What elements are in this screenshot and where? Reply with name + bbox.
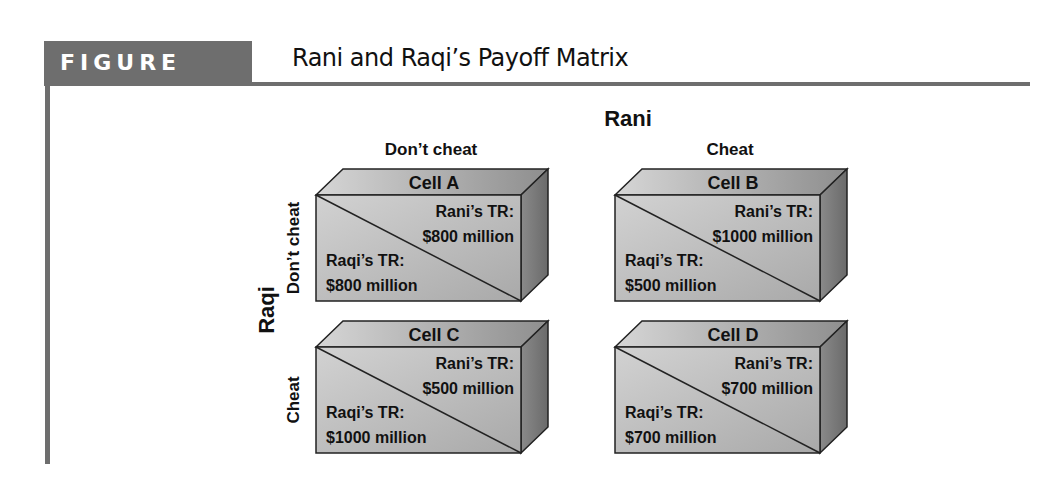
cell-b-name: Cell B [707,173,758,193]
cell-a-raqi-label: Raqi’s TR: [326,252,405,269]
cell-a: Cell A Rani’s TR: $800 million Raqi’s TR… [316,169,548,301]
column-header-cheat: Cheat [706,140,754,159]
cell-c-raqi-value: $1000 million [326,429,427,446]
cell-d-rani-label: Rani’s TR: [734,355,813,372]
row-header-dont-cheat: Don’t cheat [284,201,303,294]
cell-d-raqi-label: Raqi’s TR: [625,404,704,421]
cell-c-rani-label: Rani’s TR: [435,355,514,372]
cell-b-raqi-value: $500 million [625,277,717,294]
cell-a-raqi-value: $800 million [326,277,418,294]
cell-a-name: Cell A [409,173,459,193]
cell-b: Cell B Rani’s TR: $1000 million Raqi’s T… [615,169,847,301]
cell-b-rani-label: Rani’s TR: [734,203,813,220]
cell-c-rani-value: $500 million [422,380,514,397]
cell-d-name: Cell D [707,325,758,345]
column-header-dont-cheat: Don’t cheat [385,140,478,159]
cell-a-rani-label: Rani’s TR: [435,203,514,220]
cell-b-rani-value: $1000 million [713,228,814,245]
row-player-label: Raqi [254,286,279,334]
cell-c: Cell C Rani’s TR: $500 million Raqi’s TR… [316,321,548,453]
cell-a-rani-value: $800 million [422,228,514,245]
cell-c-name: Cell C [408,325,459,345]
payoff-matrix: Rani Don’t cheat Cheat Raqi Don’t cheat … [0,0,1061,497]
cell-b-raqi-label: Raqi’s TR: [625,252,704,269]
row-header-cheat: Cheat [284,376,303,424]
cell-d: Cell D Rani’s TR: $700 million Raqi’s TR… [615,321,847,453]
cell-d-raqi-value: $700 million [625,429,717,446]
cell-d-rani-value: $700 million [721,380,813,397]
cell-c-raqi-label: Raqi’s TR: [326,404,405,421]
column-player-label: Rani [604,106,652,131]
